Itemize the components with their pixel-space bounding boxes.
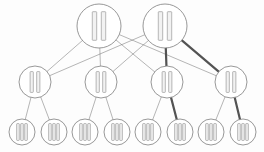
node-bar — [147, 124, 150, 141]
node-circle — [215, 66, 247, 98]
node-bar — [17, 124, 20, 141]
node-bar — [233, 72, 236, 93]
node-bar — [96, 72, 99, 93]
node-bar — [57, 124, 60, 141]
node-circle — [19, 66, 51, 98]
graph-node-m3[interactable] — [215, 66, 247, 98]
node-bar — [238, 124, 241, 141]
node-layer — [9, 4, 256, 145]
graph-svg — [0, 0, 264, 152]
graph-node-l2[interactable] — [72, 119, 98, 145]
node-bar — [30, 72, 33, 93]
node-bar — [206, 124, 209, 141]
node-bar — [179, 124, 182, 141]
node-bar — [53, 124, 56, 141]
node-bar — [103, 72, 106, 93]
node-bar — [167, 12, 171, 41]
node-circle — [151, 66, 183, 98]
node-bar — [116, 124, 119, 141]
diagram-canvas — [0, 0, 264, 152]
node-bar — [112, 124, 115, 141]
graph-node-l4[interactable] — [135, 119, 161, 145]
graph-edge — [175, 35, 224, 76]
node-bar — [21, 124, 24, 141]
graph-node-l5[interactable] — [167, 119, 193, 145]
graph-node-l7[interactable] — [230, 119, 256, 145]
node-bar — [25, 124, 28, 141]
node-bar — [162, 72, 165, 93]
node-bar — [49, 124, 52, 141]
node-circle — [77, 4, 121, 48]
node-bar — [151, 124, 154, 141]
node-bar — [214, 124, 217, 141]
node-bar — [143, 124, 146, 141]
graph-node-m1[interactable] — [85, 66, 117, 98]
node-bar — [120, 124, 123, 141]
graph-node-l3[interactable] — [104, 119, 130, 145]
graph-edge — [42, 35, 89, 76]
node-bar — [101, 12, 105, 41]
graph-node-m0[interactable] — [19, 66, 51, 98]
graph-node-r0[interactable] — [77, 4, 121, 48]
node-bar — [84, 124, 87, 141]
node-bar — [92, 12, 96, 41]
node-bar — [37, 72, 40, 93]
node-bar — [183, 124, 186, 141]
graph-node-l1[interactable] — [41, 119, 67, 145]
edge-layer — [24, 31, 242, 125]
graph-node-l6[interactable] — [198, 119, 224, 145]
node-bar — [246, 124, 249, 141]
graph-node-m2[interactable] — [151, 66, 183, 98]
node-circle — [143, 4, 187, 48]
node-bar — [88, 124, 91, 141]
graph-node-r1[interactable] — [143, 4, 187, 48]
node-bar — [175, 124, 178, 141]
node-bar — [158, 12, 162, 41]
node-bar — [242, 124, 245, 141]
node-bar — [169, 72, 172, 93]
node-circle — [85, 66, 117, 98]
graph-node-l0[interactable] — [9, 119, 35, 145]
node-bar — [80, 124, 83, 141]
node-bar — [226, 72, 229, 93]
node-bar — [210, 124, 213, 141]
